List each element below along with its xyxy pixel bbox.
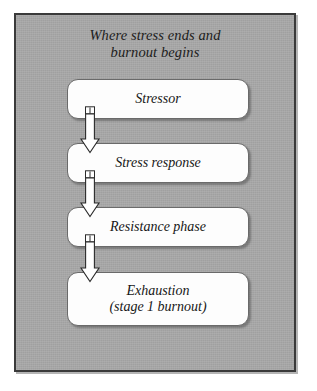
arrow-down-response-to-resistance — [79, 170, 101, 218]
page-title: Where stress ends and burnout begins — [16, 27, 294, 61]
page-title-line-2: burnout begins — [16, 44, 294, 61]
stage-label-exhaustion: Exhaustion — [109, 283, 206, 299]
arrow-down-stressor-to-response — [79, 106, 101, 154]
stage-label-resistance-phase: Resistance phase — [110, 219, 206, 235]
stage-label-group-exhaustion: Exhaustion (stage 1 burnout) — [109, 283, 206, 315]
page-title-line-1: Where stress ends and — [16, 27, 294, 44]
burnout-stage-diagram: Where stress ends and burnout begins Str… — [0, 0, 317, 391]
arrow-down-resistance-to-exhaustion — [79, 234, 101, 283]
stage-label-stressor: Stressor — [135, 91, 180, 107]
stage-label-stress-response: Stress response — [115, 155, 201, 171]
stage-sublabel-exhaustion: (stage 1 burnout) — [109, 299, 206, 315]
